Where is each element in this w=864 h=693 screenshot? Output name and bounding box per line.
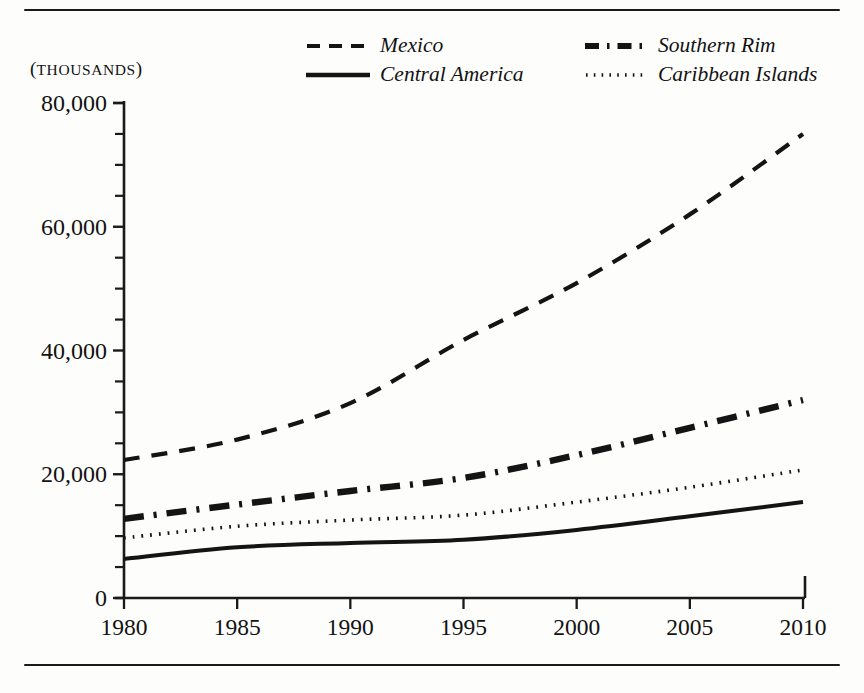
- series-line: [124, 400, 803, 519]
- series-line: [124, 502, 803, 559]
- x-axis-tick-label: 1985: [177, 616, 297, 640]
- y-axis-tick-label: 40,000: [3, 339, 107, 363]
- y-axis-tick-label: 20,000: [3, 462, 107, 486]
- x-axis-tick-label: 1990: [290, 616, 410, 640]
- plot-svg: [0, 0, 864, 693]
- x-axis-tick-label: 2010: [743, 616, 863, 640]
- figure-container: (THOUSANDS) Mexico Central America: [0, 0, 864, 693]
- y-axis-tick-label: 80,000: [3, 91, 107, 115]
- x-axis-tick-label: 1995: [404, 616, 524, 640]
- plot-area: 020,00040,00060,00080,000198019851990199…: [0, 0, 864, 693]
- x-axis-tick-label: 2000: [517, 616, 637, 640]
- x-axis-tick-label: 2005: [630, 616, 750, 640]
- y-axis-tick-label: 0: [3, 586, 107, 610]
- x-axis-tick-label: 1980: [64, 616, 184, 640]
- y-axis-tick-label: 60,000: [3, 215, 107, 239]
- series-line: [124, 134, 803, 460]
